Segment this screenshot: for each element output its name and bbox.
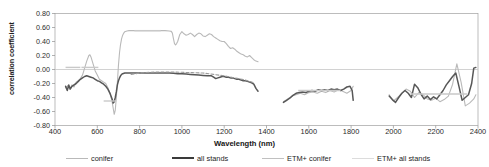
x-axis-tick-label: 600 (77, 127, 117, 136)
legend-label: conifer (91, 154, 113, 163)
y-axis-tick-label: -0.40 (18, 94, 50, 102)
y-axis-tick-label: 0.20 (18, 52, 50, 60)
legend-label: all stands (197, 154, 228, 163)
y-axis-tick-label: 0.40 (18, 38, 50, 46)
x-axis-tick-label: 2000 (373, 127, 413, 136)
legend-item[interactable]: ETM+ all stands (352, 152, 430, 164)
legend-line-icon (172, 157, 194, 159)
x-axis-tick-label: 2200 (416, 127, 456, 136)
x-axis-tick-label: 1000 (162, 127, 202, 136)
y-axis-tick-labels: 0.800.600.400.200.00-0.20-0.40-0.60-0.80 (14, 0, 50, 140)
y-axis-tick-label: -0.20 (18, 80, 50, 88)
legend-item[interactable]: conifer (66, 152, 113, 164)
legend-item[interactable]: ETM+ conifer (262, 152, 331, 164)
x-axis-tick-label: 800 (120, 127, 160, 136)
chart-legend: coniferall standsETM+ coniferETM+ all st… (0, 152, 489, 166)
x-axis-tick-label: 1400 (247, 127, 287, 136)
y-axis-tick-label: 0.60 (18, 24, 50, 32)
x-axis-tick-label: 1600 (289, 127, 329, 136)
x-axis-title: Wavelength (nm) (0, 139, 489, 148)
x-axis-tick-label: 1800 (331, 127, 371, 136)
legend-line-icon (352, 158, 374, 159)
y-axis-tick-label: -0.60 (18, 108, 50, 116)
x-axis-tick-label: 2400 (458, 127, 489, 136)
x-axis-tick-label: 400 (35, 127, 75, 136)
legend-item[interactable]: all stands (172, 152, 228, 164)
legend-line-icon (66, 158, 88, 159)
y-axis-tick-label: 0.80 (18, 10, 50, 18)
y-axis-tick-label: 0.00 (18, 66, 50, 74)
chart-figure: correlation coefficient 0.800.600.400.20… (0, 0, 489, 167)
legend-label: ETM+ conifer (287, 154, 331, 163)
legend-label: ETM+ all stands (377, 154, 430, 163)
legend-line-icon (262, 158, 284, 159)
x-axis-tick-label: 1200 (204, 127, 244, 136)
